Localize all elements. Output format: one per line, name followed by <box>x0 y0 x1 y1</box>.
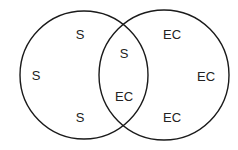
venn-diagram: S S S S EC EC EC EC <box>0 0 238 150</box>
right-label-top: EC <box>163 28 181 41</box>
left-label-middle: S <box>32 69 41 82</box>
intersection-label-top: S <box>120 47 129 60</box>
right-label-bottom: EC <box>163 111 181 124</box>
right-label-middle: EC <box>197 70 215 83</box>
left-label-bottom: S <box>76 111 85 124</box>
intersection-label-bottom: EC <box>115 90 133 103</box>
left-label-top: S <box>76 28 85 41</box>
